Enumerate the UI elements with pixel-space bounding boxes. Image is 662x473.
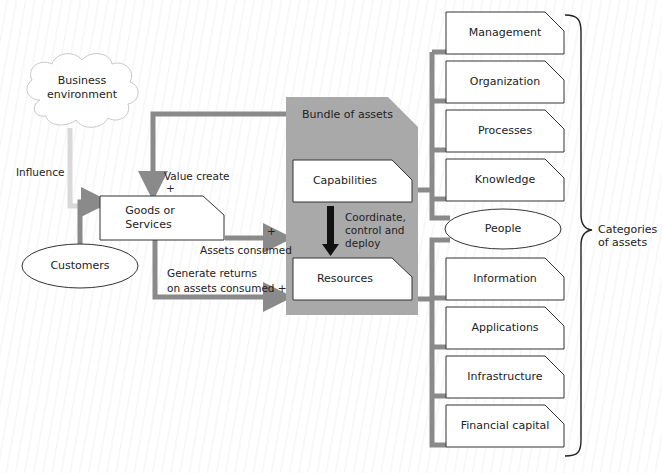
- category-financial-capital: Financial capital: [461, 419, 550, 433]
- category-organization: Organization: [470, 75, 540, 89]
- category-management: Management: [469, 26, 541, 40]
- coordinate-line1: Coordinate,: [345, 211, 406, 224]
- categories-brace: [565, 15, 592, 456]
- category-knowledge: Knowledge: [475, 173, 535, 187]
- business-environment-label: Business environment: [47, 74, 117, 102]
- goods-services-line1: Goods or: [125, 204, 174, 218]
- diagram-graphics: [0, 0, 662, 473]
- coordinate-line3: deploy: [345, 237, 406, 250]
- service-assets-diagram: Business environment Influence Value cre…: [0, 0, 662, 473]
- category-applications: Applications: [471, 321, 538, 335]
- influence-connector: [70, 128, 102, 206]
- bundle-of-assets-title: Bundle of assets: [302, 108, 393, 121]
- goods-services-label: Goods or Services: [125, 204, 174, 232]
- generate-returns-line2: on assets consumed +: [167, 282, 287, 295]
- categories-of-assets-label: Categories of assets: [598, 223, 657, 249]
- categories-line2: of assets: [598, 236, 657, 249]
- influence-label: Influence: [16, 166, 64, 179]
- asset-tree-connectors: [418, 52, 450, 445]
- assets-consumed-sign: +: [267, 225, 276, 238]
- category-people: People: [485, 222, 522, 236]
- business-environment-line1: Business: [47, 74, 117, 88]
- category-infrastructure: Infrastructure: [467, 370, 542, 384]
- value-create-sign: +: [166, 182, 175, 195]
- customers-label: Customers: [50, 259, 109, 273]
- generate-returns-line1: Generate returns: [167, 267, 257, 280]
- coordinate-label: Coordinate, control and deploy: [345, 211, 406, 250]
- assets-consumed-label: Assets consumed: [200, 244, 292, 257]
- resources-label: Resources: [317, 272, 373, 286]
- capabilities-label: Capabilities: [313, 174, 377, 188]
- categories-line1: Categories: [598, 223, 657, 236]
- category-information: Information: [473, 272, 537, 286]
- goods-services-line2: Services: [125, 218, 174, 232]
- business-environment-line2: environment: [47, 88, 117, 102]
- category-processes: Processes: [478, 124, 532, 138]
- coordinate-line2: control and: [345, 224, 406, 237]
